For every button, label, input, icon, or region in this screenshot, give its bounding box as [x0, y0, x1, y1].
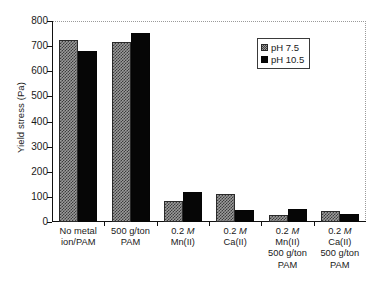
bar-ph-10-5 [183, 192, 202, 222]
x-axis-label: No metalion/PAM [52, 226, 104, 248]
bar-ph-7-5 [269, 215, 288, 222]
bar-ph-10-5 [235, 210, 254, 222]
legend-item-ph-10-5: pH 10.5 [261, 53, 304, 65]
x-axis-label: 500 g/tonPAM [104, 226, 156, 248]
y-tick-label: 400 [31, 116, 48, 127]
y-tick-label: 700 [31, 40, 48, 51]
y-tick-label: 600 [31, 65, 48, 76]
plot-top-border [52, 21, 366, 22]
x-axis-label: 0.2 MMn(II) [157, 226, 209, 248]
checkered-gray-swatch-icon [261, 44, 268, 51]
x-axis-label: 0.2 MMn(II)500 g/tonPAM [261, 226, 313, 271]
y-tick-label: 200 [31, 166, 48, 177]
legend: pH 7.5 pH 10.5 [257, 38, 310, 69]
bar-ph-10-5 [340, 214, 359, 222]
y-tick-label: 100 [31, 191, 48, 202]
bar-chart: Yield stress (Pa) 0100200300400500600700… [0, 0, 384, 296]
y-tick-label: 500 [31, 90, 48, 101]
legend-label-ph-10-5: pH 10.5 [271, 54, 304, 65]
plot-right-border [365, 21, 366, 222]
x-axis-label: 0.2 MCa(II)500 g/tonPAM [314, 226, 366, 271]
y-axis-line [52, 21, 53, 222]
bar-ph-7-5 [321, 211, 340, 222]
bar-ph-7-5 [112, 42, 131, 222]
bar-ph-10-5 [131, 33, 150, 222]
bar-ph-10-5 [288, 209, 307, 222]
bar-ph-10-5 [78, 51, 97, 222]
legend-label-ph-7-5: pH 7.5 [271, 42, 299, 53]
y-tick-label: 800 [31, 15, 48, 26]
x-axis-label: 0.2 MCa(II) [209, 226, 261, 248]
bar-ph-7-5 [216, 194, 235, 222]
x-axis-category-labels: No metalion/PAM500 g/tonPAM0.2 MMn(II)0.… [52, 226, 366, 296]
y-axis-title: Yield stress (Pa) [15, 53, 26, 183]
solid-black-swatch-icon [261, 56, 268, 63]
y-tick-label: 0 [42, 216, 48, 227]
plot-area: 0100200300400500600700800 [52, 21, 366, 222]
y-tick-label: 300 [31, 141, 48, 152]
bar-ph-7-5 [164, 201, 183, 222]
legend-item-ph-7-5: pH 7.5 [261, 41, 304, 53]
bar-ph-7-5 [59, 40, 78, 222]
